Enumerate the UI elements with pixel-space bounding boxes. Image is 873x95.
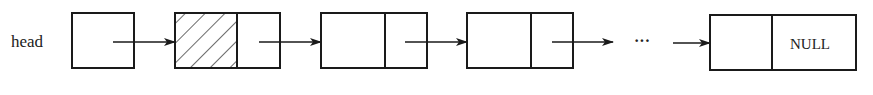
null-label: NULL bbox=[790, 36, 830, 52]
head-pointer-box bbox=[72, 13, 134, 68]
last-node bbox=[710, 15, 856, 70]
list-node bbox=[321, 13, 427, 68]
ellipsis: ··· bbox=[634, 32, 650, 49]
list-node bbox=[467, 13, 573, 68]
head-label: head bbox=[11, 32, 44, 51]
header-node bbox=[175, 13, 280, 68]
linked-list-diagram: head ··· NULL bbox=[0, 0, 873, 95]
